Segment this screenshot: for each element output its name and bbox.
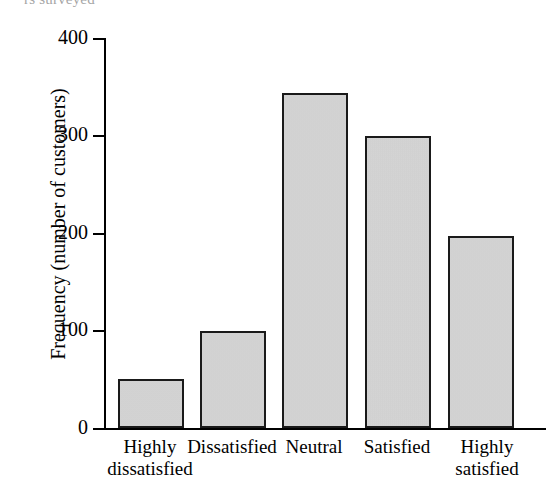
y-tick-label-0-wrap: 0 [0,417,88,437]
bar-highly-dissatisfied [118,379,184,428]
chart-figure: rs surveyed 400 300 200 100 0 [0,0,559,499]
y-tick-label-300: 300 [0,124,88,144]
y-tick-label-100-wrap: 100 [0,319,88,339]
bar-satisfied [365,136,431,428]
y-tick-label-100: 100 [0,319,88,339]
y-tick-label-0: 0 [0,417,88,437]
y-axis-title: Frequency (number of customers) [47,24,69,424]
bar-neutral [282,93,348,428]
y-tick-0 [93,428,105,430]
x-label-satisfied: Satisfied [348,436,446,458]
bar-highly-satisfied [448,236,514,428]
y-tick-label-200-wrap: 200 [0,222,88,242]
y-tick-label-200: 200 [0,222,88,242]
plot-area: 400 300 200 100 0 Highly dissatisfied Di… [0,0,559,499]
y-tick-200 [93,233,105,235]
y-tick-100 [93,330,105,332]
y-tick-label-400-wrap: 400 [0,27,88,47]
y-tick-300 [93,135,105,137]
y-tick-label-400: 400 [0,27,88,47]
x-label-highly-satisfied: Highly satisfied [438,436,536,480]
bar-dissatisfied [200,331,266,429]
x-axis-line [104,428,546,430]
y-tick-400 [93,38,105,40]
y-tick-label-300-wrap: 300 [0,124,88,144]
